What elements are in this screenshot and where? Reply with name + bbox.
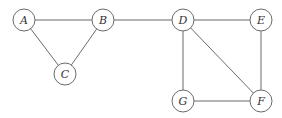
node-a: A — [13, 9, 35, 31]
node-f-label: F — [256, 95, 265, 108]
node-b: B — [92, 9, 114, 31]
edges-layer — [24, 20, 261, 101]
node-d: D — [172, 9, 194, 31]
node-f: F — [250, 90, 272, 112]
edge-d-f — [183, 20, 261, 101]
node-g: G — [172, 90, 194, 112]
node-d-label: D — [178, 14, 188, 27]
node-e: E — [250, 9, 272, 31]
graph-diagram: A B C D E F G — [0, 0, 282, 118]
node-a-label: A — [19, 14, 28, 27]
node-c-label: C — [61, 68, 70, 81]
node-b-label: B — [98, 14, 107, 27]
node-e-label: E — [256, 14, 265, 27]
node-g-label: G — [179, 95, 188, 108]
nodes-layer: A B C D E F G — [13, 9, 272, 112]
node-c: C — [54, 63, 76, 85]
